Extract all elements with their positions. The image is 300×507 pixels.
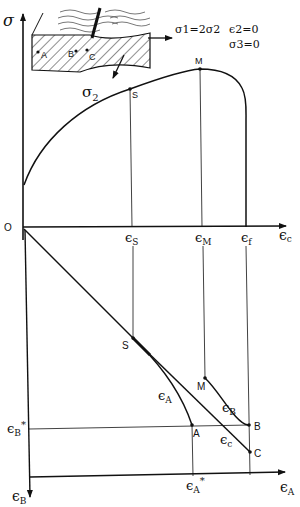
- condition-sigma3: σ3=0: [229, 38, 260, 51]
- point-B-marker: [74, 49, 77, 52]
- drop-line-M: [200, 69, 202, 227]
- path-point-C: [248, 450, 252, 454]
- path-label-C: C: [254, 448, 261, 459]
- path-label-S: S: [122, 340, 129, 351]
- drop-line-S: [130, 89, 132, 227]
- specimen-sketch: A B C σ2: [32, 8, 172, 103]
- tick-eps-S: ϵS: [125, 230, 138, 247]
- point-A-marker: [36, 50, 39, 53]
- sigma2-label: σ2: [82, 83, 99, 103]
- path-label-eps-A: ϵA: [158, 388, 172, 405]
- neck-waves: [58, 10, 150, 32]
- path-point-B: [247, 423, 251, 427]
- condition-sigma1: σ1=2σ2: [175, 23, 220, 36]
- specimen-label-C: C: [89, 52, 96, 62]
- tick-eps-f: ϵf: [241, 230, 252, 247]
- eps-B-star-line: [29, 425, 250, 429]
- path-label-B: B: [254, 421, 261, 432]
- eps-B-axis-label: ϵB: [12, 488, 27, 506]
- strain-path-eps-A: [140, 345, 192, 425]
- crack-line: [92, 8, 100, 38]
- specimen-label-B: B: [68, 49, 74, 59]
- path-label-eps-B: ϵB: [222, 400, 236, 417]
- eps-c-axis-label: ϵc: [279, 227, 292, 244]
- path-label-M: M: [197, 381, 205, 392]
- path-point-A: [190, 423, 194, 427]
- path-point-M: [203, 376, 207, 380]
- curve-label-S: S: [132, 90, 138, 100]
- sigma-axis-label: σ: [3, 11, 15, 30]
- lower-plot: ϵA ϵB ϵB* ϵA* S M A B C ϵA ϵB ϵc: [7, 229, 295, 506]
- curve-label-M: M: [195, 56, 203, 66]
- projection-line-M: [203, 246, 205, 378]
- condition-eps2: ϵ2=0: [229, 23, 258, 36]
- tick-eps-B-star: ϵB*: [7, 419, 26, 438]
- tick-eps-A-star: ϵA*: [186, 475, 205, 495]
- common-strain-path: [24, 229, 133, 338]
- origin-label: O: [4, 222, 12, 233]
- strain-diagram: A B C σ2 σ1=2σ2 ϵ2=0 σ3=0 σ O ϵc S M ϵS …: [0, 0, 300, 507]
- stress-conditions: σ1=2σ2 ϵ2=0 σ3=0: [175, 23, 260, 51]
- strain-path-eps-c: [133, 338, 250, 452]
- tick-eps-M: ϵM: [195, 230, 212, 247]
- projection-line-f: [246, 246, 250, 475]
- eps-A-axis-label: ϵA: [280, 479, 295, 497]
- path-label-A: A: [193, 428, 200, 439]
- specimen-edge-line: [32, 13, 43, 35]
- path-label-eps-c: ϵc: [220, 432, 232, 449]
- path-point-S: [131, 336, 135, 340]
- eps-B-axis: [25, 230, 30, 497]
- specimen-label-A: A: [41, 50, 47, 60]
- eps-A-axis: [30, 472, 285, 477]
